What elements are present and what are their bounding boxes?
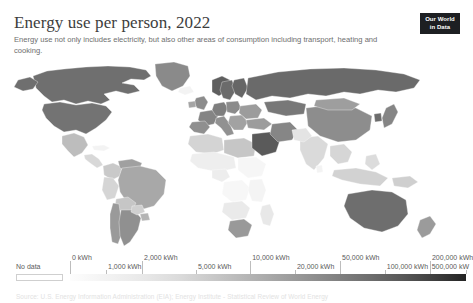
legend-tick-label: 1,000 kWh (108, 263, 141, 270)
country-papua-new-guinea[interactable] (392, 176, 418, 188)
country-kazakhstan[interactable] (264, 100, 306, 116)
country-dr-congo[interactable] (222, 180, 250, 202)
legend-tick-mark (250, 261, 251, 274)
country-argentina[interactable] (119, 210, 141, 246)
legend-gradient-bar[interactable] (70, 274, 466, 281)
country-indonesia[interactable] (332, 168, 388, 186)
country-central-america[interactable] (84, 154, 103, 168)
country-sri-lanka[interactable] (316, 165, 323, 173)
legend-tick-label: 50,000 kWh (342, 254, 379, 261)
country-madagascar[interactable] (260, 204, 274, 226)
chart-header: Energy use per person, 2022 Energy use n… (14, 14, 404, 56)
logo-line-1: Our World (425, 16, 455, 23)
country-greenland[interactable] (155, 62, 190, 91)
country-south-korea[interactable] (374, 113, 382, 122)
country-spain[interactable] (189, 121, 210, 134)
legend-tick-label: 0 kWh (72, 254, 92, 261)
legend-tick-label: 20,000 kWh (297, 263, 334, 270)
country-philippines[interactable] (365, 154, 380, 170)
country-cuba[interactable] (92, 145, 110, 151)
legend-tick-label: 2,000 kWh (144, 254, 177, 261)
country-australia[interactable] (344, 190, 408, 232)
country-ireland[interactable] (188, 101, 196, 108)
country-finland[interactable] (232, 78, 248, 98)
legend-tick-mark (466, 270, 467, 274)
map-svg (0, 58, 469, 254)
map-legend[interactable]: No data 0 kWh1,000 kWh2,000 kWh5,000 kWh… (0, 252, 469, 288)
page-title: Energy use per person, 2022 (14, 14, 404, 32)
country-sudan-ethiopia[interactable] (238, 157, 266, 178)
country-uruguay[interactable] (140, 213, 150, 221)
country-germany[interactable] (212, 102, 228, 116)
legend-tick-label: 200,000 kWh (432, 254, 473, 261)
country-poland[interactable] (226, 101, 241, 114)
country-morocco-algeria[interactable] (188, 134, 224, 154)
logo-line-2: in Data (430, 24, 450, 31)
legend-no-data-swatch[interactable] (16, 274, 63, 281)
legend-tick-mark (340, 261, 341, 274)
country-mexico[interactable] (62, 133, 88, 157)
chart-subtitle: Energy use not only includes electricity… (14, 35, 387, 57)
country-peru[interactable] (102, 177, 119, 200)
legend-tick-label: 5,000 kWh (198, 263, 231, 270)
legend-tick-mark (142, 261, 143, 274)
country-southeast-asia[interactable] (330, 144, 352, 164)
country-nigeria[interactable] (212, 169, 230, 182)
country-russia[interactable] (246, 68, 420, 100)
our-world-in-data-logo[interactable]: Our World in Data (420, 13, 460, 34)
country-canada[interactable] (33, 66, 151, 104)
legend-tick-label: 100,000 kWh (387, 263, 428, 270)
country-japan[interactable] (382, 104, 398, 128)
legend-tick-mark (106, 270, 107, 274)
legend-tick-mark (70, 261, 71, 274)
country-united-kingdom[interactable] (194, 96, 208, 110)
country-libya-egypt[interactable] (224, 138, 256, 158)
country-united-states[interactable] (42, 102, 112, 134)
world-choropleth-map[interactable] (0, 58, 469, 254)
legend-tick-mark (385, 270, 386, 274)
country-angola-zambia[interactable] (222, 201, 250, 220)
country-new-zealand[interactable] (417, 216, 436, 238)
country-turkey[interactable] (246, 118, 272, 130)
country-south-africa[interactable] (228, 219, 252, 238)
source-footer: Source: U.S. Energy Information Administ… (16, 293, 328, 300)
legend-tick-mark (295, 270, 296, 274)
country-east-africa[interactable] (248, 179, 266, 202)
legend-tick-label: 10,000 kWh (252, 254, 289, 261)
legend-tick-label: 500,000 kW (432, 263, 469, 270)
legend-no-data-label: No data (16, 263, 41, 270)
legend-tick-mark (196, 270, 197, 274)
